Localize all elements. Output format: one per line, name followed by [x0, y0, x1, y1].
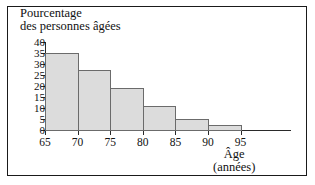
- x-tick-mark: [241, 131, 242, 135]
- x-tick-mark: [45, 131, 46, 135]
- x-axis-caption: Âge (années): [213, 148, 255, 174]
- x-tick-mark: [208, 131, 209, 135]
- y-tick-label: 10: [23, 103, 45, 114]
- histogram-bar: [110, 88, 144, 131]
- x-tick-label: 90: [193, 136, 223, 148]
- x-tick-label: 85: [160, 136, 190, 148]
- y-tick-label: 25: [23, 70, 45, 81]
- y-tick-label: 5: [23, 114, 45, 125]
- histogram-bar: [45, 53, 79, 131]
- x-tick-label: 75: [95, 136, 125, 148]
- histogram-plot: 0510152025303540 65707580859095: [0, 0, 300, 170]
- y-tick-label: 40: [23, 37, 45, 48]
- histogram-bar: [175, 119, 209, 131]
- x-tick-mark: [143, 131, 144, 135]
- y-tick-label: 35: [23, 48, 45, 59]
- histogram-bar: [143, 106, 177, 131]
- x-tick-label: 80: [128, 136, 158, 148]
- x-axis-unit: (années): [213, 161, 255, 174]
- x-tick-label: 70: [63, 136, 93, 148]
- y-tick-label: 15: [23, 92, 45, 103]
- x-tick-mark: [175, 131, 176, 135]
- y-tick-label: 30: [23, 59, 45, 70]
- x-tick-mark: [78, 131, 79, 135]
- y-tick-label: 0: [23, 125, 45, 136]
- x-tick-label: 65: [30, 136, 60, 148]
- y-tick-label: 20: [23, 81, 45, 92]
- histogram-bar: [78, 70, 112, 132]
- x-tick-mark: [110, 131, 111, 135]
- histogram-bar: [208, 125, 242, 132]
